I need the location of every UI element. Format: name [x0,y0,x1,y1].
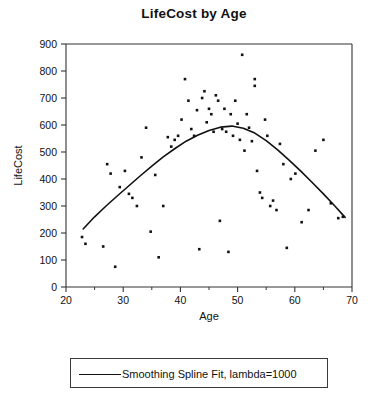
data-point [223,108,226,111]
data-point [215,94,218,97]
data-point [259,191,262,194]
data-point [289,178,292,181]
data-point [219,220,222,223]
data-point [136,205,139,208]
data-point [201,97,204,100]
data-point [282,163,285,166]
data-point [109,172,112,175]
data-point [180,118,183,121]
legend-entry-label: Smoothing Spline Fit, lambda=1000 [122,369,297,380]
y-axis-tick-label: 500 [39,146,57,158]
data-point [234,99,237,102]
data-point [241,54,244,57]
scatter-points [81,54,344,269]
data-point [272,199,275,202]
data-point [337,217,340,220]
y-axis-tick-label: 700 [39,92,57,104]
data-point [217,99,220,102]
y-axis-tick-label: 900 [39,38,57,50]
data-point [167,136,170,139]
data-point [253,85,256,88]
data-point [251,140,254,143]
y-axis-tick-label: 600 [39,119,57,131]
x-axis-tick-label: 20 [60,294,72,306]
x-axis-tick-label: 30 [117,294,129,306]
data-point [118,186,121,189]
y-axis-tick-label: 100 [39,254,57,266]
data-point [184,78,187,81]
data-point [157,256,160,259]
data-point [198,248,201,251]
data-point [269,205,272,208]
data-point [205,121,208,124]
data-point [203,90,206,93]
data-point [253,78,256,81]
data-point [285,247,288,250]
y-axis-tick-label: 200 [39,227,57,239]
chart-page: LifeCost by Age 010020030040050060070080… [0,0,388,414]
data-point [307,209,310,212]
data-point [128,193,131,196]
data-point [106,163,109,166]
data-point [232,135,235,138]
data-point [236,122,239,125]
y-axis-title: LifeCost [12,145,24,185]
data-point [131,197,134,200]
data-point [190,128,193,131]
data-point [210,113,213,116]
data-point [322,139,325,142]
data-point [187,99,190,102]
data-point [162,205,165,208]
y-axis-tick-label: 0 [51,281,57,293]
data-point [294,172,297,175]
data-point [279,143,282,146]
data-point [196,109,199,112]
data-point [225,130,228,133]
data-point [221,128,224,131]
data-point [300,221,303,224]
data-point [124,170,127,173]
spline-fit-line [83,126,345,229]
data-point [149,230,152,233]
y-axis-tick-label: 800 [39,65,57,77]
x-axis-tick-label: 70 [346,294,358,306]
x-axis-title: Age [199,310,219,322]
data-point [114,265,117,268]
y-axis-tick-label: 400 [39,173,57,185]
data-point [261,197,264,200]
legend-line-swatch [79,374,121,375]
data-point [245,113,248,116]
scatter-plot: 0100200300400500600700800900203040506070… [0,0,388,414]
data-point [154,174,157,177]
legend: Smoothing Spline Fit, lambda=1000 [70,358,328,388]
legend-entry: Smoothing Spline Fit, lambda=1000 [79,359,297,389]
data-point [170,145,173,148]
data-point [140,156,143,159]
data-point [208,108,211,111]
data-point [264,118,267,121]
data-point [173,139,176,142]
data-point [239,139,242,142]
data-point [177,135,180,138]
data-point [314,149,317,152]
data-point [248,126,251,129]
data-point [102,245,105,248]
x-axis-tick-label: 40 [175,294,187,306]
data-point [212,130,215,133]
data-point [84,243,87,246]
plot-frame [66,44,352,287]
data-point [243,149,246,152]
data-point [256,170,259,173]
x-axis-tick-label: 60 [289,294,301,306]
data-point [81,236,84,239]
data-point [275,209,278,212]
data-point [145,126,148,129]
data-point [227,251,230,254]
data-point [229,113,232,116]
x-axis-tick-label: 50 [232,294,244,306]
y-axis-tick-label: 300 [39,200,57,212]
data-point [266,135,269,138]
